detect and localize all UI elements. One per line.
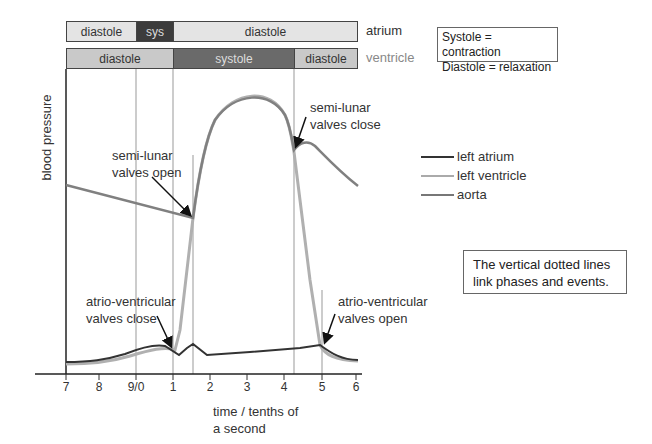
y-axis-label: blood pressure xyxy=(39,88,54,188)
vertical-marker-lines xyxy=(136,69,322,374)
x-tick-label: 8 xyxy=(96,380,103,394)
x-tick-label: 9/0 xyxy=(128,380,145,394)
legend-swatch xyxy=(421,194,454,196)
av-open-arrow xyxy=(325,314,335,342)
note-box: The vertical dotted lines link phases an… xyxy=(463,250,627,294)
x-axis-label: time / tenths of a second xyxy=(213,403,298,437)
legend-item-aorta: aorta xyxy=(421,187,487,202)
pressure-chart xyxy=(0,0,652,444)
legend-item-left-atrium: left atrium xyxy=(421,149,514,164)
av-close-annotation: atrio-ventricular valves close xyxy=(86,293,176,327)
legend-item-left-ventricle: left ventricle xyxy=(421,168,526,183)
x-tick-label: 1 xyxy=(170,380,177,394)
x-tick-label: 4 xyxy=(281,380,288,394)
x-tick-label: 6 xyxy=(353,380,360,394)
x-tick-label: 7 xyxy=(63,380,70,394)
legend-swatch xyxy=(421,156,454,158)
semilunar-open-annotation: semi-lunar valves open xyxy=(112,147,181,181)
x-tick-label: 5 xyxy=(319,380,326,394)
x-tick-label: 2 xyxy=(207,380,214,394)
x-tick-label: 3 xyxy=(244,380,251,394)
av-open-annotation: atrio-ventricular valves open xyxy=(338,293,428,327)
semilunar-close-annotation: semi-lunar valves close xyxy=(310,99,381,133)
legend-swatch xyxy=(421,175,454,177)
